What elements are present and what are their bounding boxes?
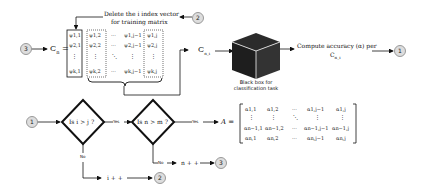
alpha-cell: α1,j [336,106,346,112]
cn-sub: n_i [204,51,210,56]
compute-accuracy-line2: Cn_i [330,52,340,60]
connector-1-start: 1 [26,116,38,128]
alpha-cell: αn,1 [245,135,256,141]
psi-cell: ψ2,2 [89,42,101,48]
psi-matrix: ψ1,1 ψ1,2 ··· ψ1,j−1 ψ1,j ψ2,1 ψ2,2 ··· … [68,32,168,77]
diagram-lines [0,0,425,195]
psi-cell: ψ1,2 [89,32,101,38]
psi-cell: ··· [111,42,116,48]
compute-accuracy-line1: Compute accuracy (α) per [297,43,377,49]
i-increment: i + + [107,175,123,181]
alpha-cell: αn,j−1 [307,135,324,141]
psi-cell: ψk,1 [69,68,81,74]
black-box-label-line2: classification task [230,86,282,91]
psi-cell: ψ2,j−1 [124,42,142,48]
alpha-cell: αn,j [336,135,346,141]
alpha-cell: ··· [292,135,297,141]
psi-cell: ψ1,1 [69,32,81,38]
compute-sub: n_i [335,55,341,60]
connector-3-n: 3 [215,157,227,169]
alpha-cell: α1,2 [267,106,278,112]
n-increment: n + + [181,160,199,166]
a-matrix-label: A = [221,119,234,126]
psi-cell: ⋮ [151,53,156,59]
connector-1-end: 1 [394,45,406,57]
connector-3-start: 3 [20,43,32,55]
alpha-matrix: α1,1 α1,2 ··· α1,j−1 α1,j ⋮ ⋮ ⋱ ⋮ ⋮ αn−1… [244,106,354,144]
psi-cell: ··· [111,68,116,74]
psi-cell: ⋮ [72,53,77,59]
alpha-cell: ⋮ [315,114,320,120]
c-sub: n [56,49,59,55]
c-ni-label: Cn_i [198,46,210,56]
alpha-cell: αn−1,j [332,125,349,131]
psi-cell: ψk,j−1 [124,68,141,74]
alpha-cell: ⋱ [293,114,298,120]
yes-label-2: Yes [192,120,198,124]
alpha-cell: ⋮ [271,114,276,120]
alpha-cell: αn−1,2 [265,125,284,131]
psi-cell: ⋮ [130,53,135,59]
psi-cell: ψ2,j [147,42,157,48]
alpha-cell: αn,2 [267,135,278,141]
psi-cell: ⋱ [112,53,117,59]
yes-label-1: Yes [113,120,119,124]
alpha-cell: αn−1,j−1 [304,125,328,131]
psi-cell: ψ2,1 [69,42,81,48]
no-label-2: No [158,161,163,165]
psi-cell: ··· [111,32,116,38]
connector-2-i: 2 [154,172,166,184]
alpha-cell: ⋮ [340,114,345,120]
psi-cell: ψ1,j [147,32,157,38]
alpha-cell: α1,1 [245,106,256,112]
no-label-1: No [80,155,85,159]
black-box-cube-icon [232,33,280,79]
delete-note-line1: Delete the i index vector [104,11,179,17]
alpha-cell: ··· [292,106,297,112]
alpha-cell: α1,j−1 [307,106,324,112]
psi-cell: ⋮ [93,53,98,59]
psi-cell: ψ1,j−1 [124,32,142,38]
alpha-cell: ⋮ [249,114,254,120]
c-n-label: Cn = [50,45,69,55]
delete-note-line2: for training matrix [111,19,168,25]
alpha-cell: ··· [292,125,297,131]
decision-i-gt-j: Is i > j ? [69,119,94,125]
psi-cell: ψk,2 [89,68,101,74]
alpha-cell: αn−1,1 [244,125,263,131]
psi-cell: ψk,j [147,68,157,74]
connector-2-delete: 2 [192,12,204,24]
decision-n-gt-m: Is n > m ? [137,119,168,125]
